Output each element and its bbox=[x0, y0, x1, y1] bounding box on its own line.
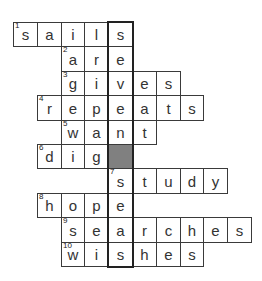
cell-letter: y bbox=[212, 173, 220, 190]
cell-letter: a bbox=[45, 26, 53, 43]
crossword-cell[interactable]: e bbox=[61, 95, 85, 121]
crossword-cell[interactable]: p bbox=[84, 95, 109, 121]
cell-letter: p bbox=[92, 100, 100, 117]
crossword-cell[interactable]: w10 bbox=[61, 242, 85, 267]
shaded-cell bbox=[108, 144, 133, 169]
cell-letter: r bbox=[142, 222, 147, 239]
crossword-cell[interactable]: o bbox=[61, 193, 85, 218]
cell-letter: w bbox=[68, 124, 79, 141]
crossword-cell[interactable]: w5 bbox=[61, 120, 85, 145]
cell-letter: e bbox=[116, 51, 124, 68]
crossword-cell[interactable]: h bbox=[180, 217, 204, 243]
cell-letter: a bbox=[69, 51, 77, 68]
clue-number: 7 bbox=[110, 167, 114, 177]
crossword-cell[interactable]: t bbox=[156, 95, 181, 121]
clue-number: 5 bbox=[63, 119, 67, 129]
cell-letter: t bbox=[142, 173, 146, 190]
cell-letter: h bbox=[188, 222, 196, 239]
cell-letter: s bbox=[69, 222, 77, 239]
crossword-cell[interactable]: s bbox=[108, 242, 133, 267]
crossword-cell[interactable]: s1 bbox=[13, 22, 38, 47]
crossword-cell[interactable]: s7 bbox=[108, 168, 133, 194]
crossword-cell[interactable]: t bbox=[132, 120, 157, 145]
cell-letter: h bbox=[140, 246, 148, 263]
crossword-cell[interactable]: a2 bbox=[61, 46, 85, 72]
crossword-cell[interactable]: i bbox=[84, 242, 109, 267]
cell-letter: e bbox=[164, 246, 172, 263]
cell-letter: s bbox=[117, 246, 125, 263]
cell-letter: p bbox=[92, 197, 100, 214]
clue-number: 3 bbox=[63, 70, 67, 80]
crossword-grid: s1ailsa2reg3ivesr4epeatsw5antd6igs7tudyh… bbox=[0, 0, 262, 281]
crossword-cell[interactable]: v bbox=[108, 71, 133, 96]
cell-letter: a bbox=[116, 222, 124, 239]
cell-letter: s bbox=[165, 75, 173, 92]
clue-number: 6 bbox=[39, 143, 43, 153]
crossword-cell[interactable]: l bbox=[84, 22, 109, 47]
crossword-cell[interactable]: d6 bbox=[37, 144, 62, 169]
crossword-cell[interactable]: e bbox=[132, 71, 157, 96]
crossword-cell[interactable]: c bbox=[156, 217, 181, 243]
clue-number: 9 bbox=[63, 216, 67, 226]
cell-letter: d bbox=[188, 173, 196, 190]
cell-letter: t bbox=[142, 124, 146, 141]
cell-letter: i bbox=[95, 246, 98, 263]
crossword-cell[interactable]: s bbox=[180, 242, 204, 267]
crossword-cell[interactable]: e bbox=[108, 46, 133, 72]
cell-letter: e bbox=[140, 75, 148, 92]
crossword-cell[interactable]: r4 bbox=[37, 95, 62, 121]
cell-letter: d bbox=[45, 148, 53, 165]
crossword-cell[interactable]: e bbox=[84, 217, 109, 243]
cell-letter: e bbox=[92, 222, 100, 239]
crossword-cell[interactable]: s9 bbox=[61, 217, 85, 243]
cell-letter: u bbox=[164, 173, 172, 190]
crossword-cell[interactable]: e bbox=[156, 242, 181, 267]
crossword-cell[interactable]: y bbox=[203, 168, 228, 194]
crossword-cell[interactable]: d bbox=[180, 168, 204, 194]
crossword-cell[interactable]: r bbox=[132, 217, 157, 243]
cell-letter: t bbox=[166, 100, 170, 117]
crossword-cell[interactable]: i bbox=[61, 22, 85, 47]
crossword-cell[interactable]: s bbox=[108, 22, 133, 47]
crossword-cell[interactable]: a bbox=[108, 217, 133, 243]
crossword-cell[interactable]: e bbox=[108, 193, 133, 218]
crossword-cell[interactable]: g bbox=[84, 144, 109, 169]
cell-letter: n bbox=[116, 124, 124, 141]
cell-letter: e bbox=[69, 100, 77, 117]
crossword-cell[interactable]: p bbox=[84, 193, 109, 218]
crossword-cell[interactable]: g3 bbox=[61, 71, 85, 96]
crossword-cell[interactable]: e bbox=[203, 217, 228, 243]
cell-letter: i bbox=[95, 75, 98, 92]
crossword-cell[interactable]: a bbox=[132, 95, 157, 121]
crossword-cell[interactable]: s bbox=[156, 71, 181, 96]
clue-number: 4 bbox=[39, 94, 43, 104]
crossword-cell[interactable]: s bbox=[180, 95, 204, 121]
crossword-cell[interactable]: a bbox=[37, 22, 62, 47]
crossword-cell[interactable]: a bbox=[84, 120, 109, 145]
cell-letter: s bbox=[117, 26, 125, 43]
cell-letter: a bbox=[140, 100, 148, 117]
crossword-cell[interactable]: i bbox=[84, 71, 109, 96]
cell-letter: e bbox=[211, 222, 219, 239]
clue-number: 10 bbox=[63, 241, 72, 251]
cell-letter: i bbox=[71, 26, 74, 43]
cell-letter: v bbox=[117, 75, 125, 92]
clue-number: 8 bbox=[39, 192, 43, 202]
crossword-cell[interactable]: h bbox=[132, 242, 157, 267]
crossword-cell[interactable]: n bbox=[108, 120, 133, 145]
crossword-cell[interactable]: h8 bbox=[37, 193, 62, 218]
crossword-cell[interactable]: s bbox=[227, 217, 252, 243]
cell-letter: o bbox=[69, 197, 77, 214]
cell-letter: s bbox=[236, 222, 244, 239]
cell-letter: s bbox=[117, 173, 125, 190]
cell-letter: i bbox=[71, 148, 74, 165]
crossword-cell[interactable]: t bbox=[132, 168, 157, 194]
crossword-cell[interactable]: e bbox=[108, 95, 133, 121]
crossword-cell[interactable]: u bbox=[156, 168, 181, 194]
clue-number: 1 bbox=[15, 21, 19, 31]
cell-letter: c bbox=[165, 222, 173, 239]
cell-letter: r bbox=[94, 51, 99, 68]
crossword-cell[interactable]: i bbox=[61, 144, 85, 169]
crossword-cell[interactable]: r bbox=[84, 46, 109, 72]
cell-letter: a bbox=[92, 124, 100, 141]
